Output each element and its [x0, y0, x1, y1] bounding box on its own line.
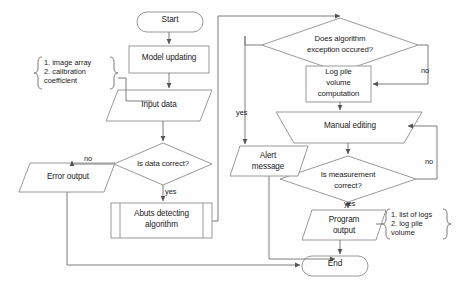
label-alert-message-line2: message	[232, 163, 304, 172]
label-is-data-correct: Is data correct?	[119, 160, 207, 168]
label-log-pile-line2: volume	[306, 79, 371, 87]
annotation-input-line2: 2. calibration	[44, 67, 114, 76]
edge-label-exception-no: no	[421, 66, 429, 75]
label-is-measurement-line2: correct?	[300, 182, 396, 190]
label-end: End	[302, 260, 368, 269]
edge-label-measurement-yes: yes	[344, 199, 356, 208]
flowchart-canvas: Start Model updating Input data Is data …	[0, 0, 456, 291]
annotation-input-line1: 1. image array	[44, 58, 114, 67]
edge-exception-yes	[245, 36, 262, 144]
annotation-output-note: 1. list of logs 2. log pile volume	[391, 210, 449, 237]
label-manual-editing: Manual editing	[295, 122, 405, 131]
edge-label-data-correct-no: no	[84, 154, 92, 163]
label-program-output-line2: output	[306, 227, 382, 236]
label-alert-message-line1: Alert	[232, 152, 304, 161]
label-error-output: Error output	[22, 173, 114, 182]
edge-label-data-correct-yes: yes	[165, 187, 177, 196]
flowchart-graphics	[0, 0, 456, 291]
label-is-measurement-line1: Is measurement	[300, 171, 396, 179]
label-input-data: Input data	[110, 101, 208, 110]
annotation-input-note: 1. image array 2. calibration coefficien…	[44, 58, 114, 85]
label-program-output-line1: Program	[306, 216, 382, 225]
label-exception-decision-line1: Does algorithm	[290, 35, 390, 43]
label-abuts-detecting-line2: algorithm	[113, 221, 210, 230]
label-model-updating: Model updating	[129, 54, 209, 63]
edge-no-to-error	[72, 161, 114, 164]
label-log-pile-line3: computation	[300, 90, 377, 98]
annotation-output-line1: 1. list of logs	[391, 210, 449, 219]
edge-measurement-no	[408, 126, 437, 179]
annotation-input-line3: coefficient	[44, 76, 114, 85]
label-log-pile-line1: Log pile	[306, 68, 371, 76]
label-abuts-detecting-line1: Abuts detecting	[113, 210, 210, 219]
label-exception-decision-line2: exception occured?	[285, 46, 395, 54]
annotation-output-line3: volume	[391, 228, 449, 237]
label-start: Start	[137, 16, 203, 25]
edge-label-exception-yes: yes	[236, 108, 248, 117]
annotation-output-line2: 2. log pile	[391, 219, 449, 228]
edge-label-measurement-no: no	[425, 157, 433, 166]
